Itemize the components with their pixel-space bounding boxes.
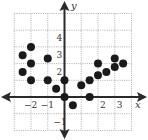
data-point	[61, 93, 69, 101]
data-point	[61, 76, 69, 84]
x-tick-label: −2	[24, 100, 37, 110]
x-tick-label: 3	[117, 100, 123, 110]
data-point	[44, 76, 52, 84]
data-point	[94, 60, 102, 68]
x-tick-label: 2	[100, 100, 106, 110]
data-point	[102, 68, 110, 76]
grid	[14, 14, 131, 131]
y-tick-label: 3	[57, 50, 63, 60]
data-point	[86, 76, 94, 84]
y-tick-label: 2	[57, 67, 63, 77]
scatter-plot: −2−123432−1 x y	[0, 0, 148, 140]
data-point	[69, 101, 77, 109]
data-point	[86, 93, 94, 101]
x-axis-title: x	[135, 99, 141, 110]
data-point	[19, 68, 27, 76]
data-point	[27, 43, 35, 51]
data-point	[119, 60, 127, 68]
data-point	[94, 71, 102, 79]
data-point	[44, 55, 52, 63]
data-point	[52, 85, 60, 93]
data-point	[27, 76, 35, 84]
y-tick-label: −1	[54, 117, 67, 127]
data-point	[19, 51, 27, 59]
data-point	[111, 55, 119, 63]
data-point	[111, 63, 119, 71]
y-tick-label: 4	[57, 33, 63, 43]
data-point	[77, 81, 85, 89]
y-axis-title: y	[70, 0, 77, 11]
x-tick-label: −1	[41, 100, 54, 110]
data-point	[27, 60, 35, 68]
